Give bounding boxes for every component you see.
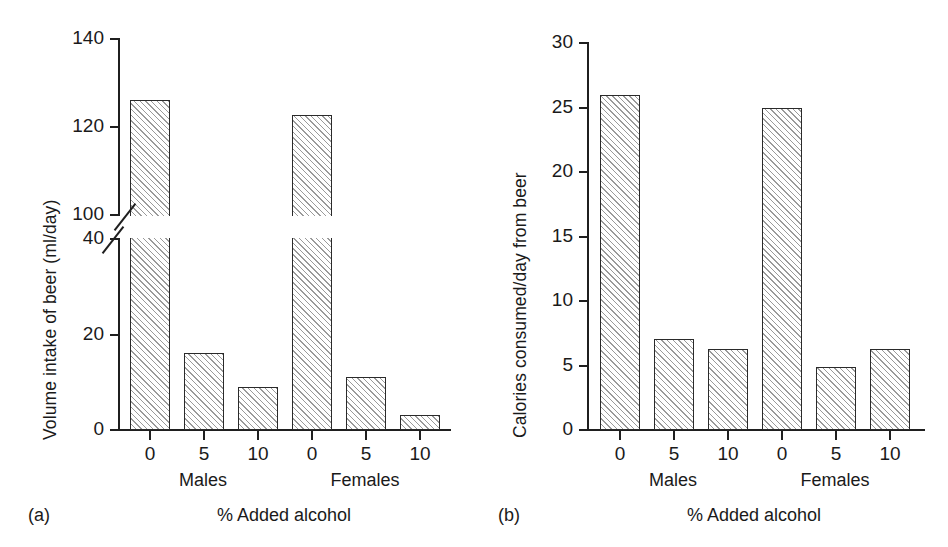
x-tick-label-b-5: 10	[860, 443, 920, 465]
y-tick-label-a-20: 20	[58, 323, 104, 345]
y-tick-label-b-15: 15	[527, 225, 573, 247]
x-tick-label-b-1: 5	[644, 443, 704, 465]
bar-b-females-0	[762, 108, 802, 430]
y-tick-label-a-100: 100	[58, 203, 104, 225]
x-tick-label-a-1: 5	[174, 443, 234, 465]
bar-a-females-10	[400, 415, 440, 430]
x-tick-b-4	[835, 431, 837, 440]
x-tick-label-a-0: 0	[120, 443, 180, 465]
x-tick-b-1	[673, 431, 675, 440]
y-tick-label-b-10: 10	[527, 289, 573, 311]
group-label-a-males: Males	[153, 470, 253, 491]
y-tick-b-20	[579, 171, 588, 173]
y-tick-label-b-25: 25	[527, 96, 573, 118]
x-tick-b-5	[889, 431, 891, 440]
y-tick-b-5	[579, 365, 588, 367]
chart-panel-b: Calories consumed/day from beer 30 25 20…	[474, 0, 948, 547]
panel-tag-a: (a)	[28, 505, 50, 526]
bar-b-females-10	[870, 349, 910, 430]
x-tick-a-2	[257, 431, 259, 440]
y-tick-a-140	[110, 38, 119, 40]
y-tick-label-b-20: 20	[527, 160, 573, 182]
group-label-b-males: Males	[623, 470, 723, 491]
x-axis-title-b: % Added alcohol	[604, 505, 904, 526]
x-tick-b-0	[619, 431, 621, 440]
bar-b-females-5	[816, 367, 856, 430]
y-tick-label-a-0: 0	[58, 418, 104, 440]
group-label-b-females: Females	[785, 470, 885, 491]
y-tick-a-120	[110, 126, 119, 128]
y-tick-label-b-30: 30	[527, 31, 573, 53]
bar-b-males-0	[600, 95, 640, 430]
x-tick-a-1	[203, 431, 205, 440]
bar-a-males-5	[184, 353, 224, 430]
x-tick-a-5	[419, 431, 421, 440]
x-tick-b-3	[781, 431, 783, 440]
x-tick-label-b-2: 10	[698, 443, 758, 465]
y-tick-a-20	[110, 334, 119, 336]
chart-panel-a: Volume intake of beer (ml/day) 140 120 1…	[0, 0, 474, 547]
y-tick-b-0	[579, 429, 588, 431]
bar-a-males-0-upper	[130, 100, 170, 216]
x-tick-a-4	[365, 431, 367, 440]
x-tick-label-a-5: 10	[390, 443, 450, 465]
bar-b-males-5	[654, 339, 694, 430]
x-tick-label-b-3: 0	[752, 443, 812, 465]
y-tick-label-b-5: 5	[527, 354, 573, 376]
x-tick-label-b-4: 5	[806, 443, 866, 465]
x-tick-label-b-0: 0	[590, 443, 650, 465]
bar-a-females-0-lower	[292, 238, 332, 430]
y-tick-b-10	[579, 300, 588, 302]
x-tick-label-a-2: 10	[228, 443, 288, 465]
group-label-a-females: Females	[315, 470, 415, 491]
y-tick-label-a-140: 140	[58, 27, 104, 49]
panel-tag-b: (b)	[498, 505, 520, 526]
y-tick-label-a-40: 40	[58, 227, 104, 249]
x-axis-title-a: % Added alcohol	[134, 505, 434, 526]
x-tick-label-a-4: 5	[336, 443, 396, 465]
bar-a-females-0-upper	[292, 115, 332, 216]
y-tick-b-30	[579, 42, 588, 44]
x-tick-b-2	[727, 431, 729, 440]
y-tick-b-25	[579, 107, 588, 109]
bar-a-females-5	[346, 377, 386, 430]
y-tick-label-a-120: 120	[58, 115, 104, 137]
y-tick-b-15	[579, 236, 588, 238]
x-tick-a-0	[149, 431, 151, 440]
bar-a-males-10	[238, 387, 278, 430]
bar-a-males-0-lower	[130, 238, 170, 430]
x-tick-a-3	[311, 431, 313, 440]
bar-b-males-10	[708, 349, 748, 430]
y-tick-label-b-0: 0	[527, 418, 573, 440]
y-tick-a-0	[110, 429, 119, 431]
x-tick-label-a-3: 0	[282, 443, 342, 465]
